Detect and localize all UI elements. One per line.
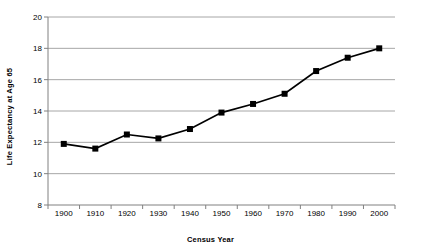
y-tick-label: 10 — [20, 169, 42, 178]
x-tick-label: 2000 — [362, 209, 396, 218]
data-point-marker — [61, 141, 67, 147]
data-point-marker — [282, 91, 288, 97]
y-tick-label: 8 — [20, 201, 42, 210]
x-tick-label: 1990 — [331, 209, 365, 218]
x-axis-title: Census Year — [187, 235, 234, 244]
x-tick-label: 1940 — [173, 209, 207, 218]
x-tick-label: 1930 — [141, 209, 175, 218]
x-tick-label: 1960 — [236, 209, 270, 218]
data-point-marker — [345, 55, 351, 61]
x-tick-label: 1920 — [110, 209, 144, 218]
x-tick-label: 1910 — [78, 209, 112, 218]
x-tick-label: 1980 — [299, 209, 333, 218]
data-point-marker — [124, 132, 130, 138]
data-point-marker — [376, 45, 382, 51]
data-point-marker — [313, 68, 319, 74]
data-point-marker — [155, 135, 161, 141]
y-tick-marks-group — [44, 17, 48, 205]
data-point-marker — [92, 146, 98, 152]
chart-container: Life Expectancy at Age 65 8101214161820 … — [0, 0, 421, 250]
y-tick-label: 14 — [20, 107, 42, 116]
x-tick-label: 1970 — [268, 209, 302, 218]
data-point-markers-group — [61, 45, 382, 151]
y-tick-label: 16 — [20, 75, 42, 84]
y-tick-label: 20 — [20, 13, 42, 22]
gridlines-group — [48, 17, 395, 174]
x-axis-title-container: Census Year — [0, 228, 421, 246]
data-point-marker — [187, 126, 193, 132]
data-point-marker — [219, 110, 225, 116]
x-tick-label: 1950 — [205, 209, 239, 218]
y-tick-label: 18 — [20, 44, 42, 53]
data-point-marker — [250, 101, 256, 107]
y-tick-label: 12 — [20, 138, 42, 147]
data-line-series — [64, 48, 379, 148]
x-tick-label: 1900 — [47, 209, 81, 218]
